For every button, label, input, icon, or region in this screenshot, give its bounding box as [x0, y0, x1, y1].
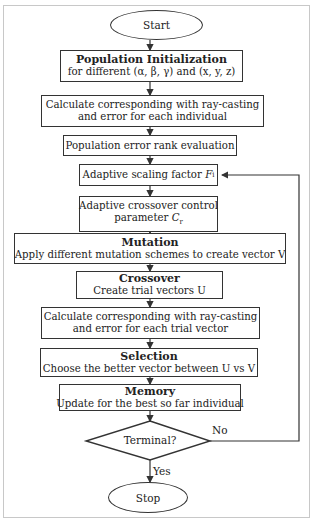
step-selection: Selection Choose the better vector betwe… — [40, 348, 258, 377]
symbol-subscript: r — [179, 218, 182, 226]
step-text: Create trial vectors U — [93, 285, 206, 297]
start-terminal: Start — [110, 10, 203, 40]
step-title: Crossover — [119, 273, 180, 285]
step-text: Population error rank evaluation — [66, 140, 235, 152]
step-calc-individual: Calculate corresponding with ray-casting… — [41, 95, 264, 127]
step-text-line1: Adaptive crossover control — [79, 200, 218, 212]
step-mutation: Mutation Apply different mutation scheme… — [14, 233, 286, 264]
step-text: Adaptive scaling factor — [83, 169, 202, 181]
start-label: Start — [143, 19, 170, 31]
step-text-line2: and error for each individual — [78, 111, 227, 123]
step-text-line1: Calculate corresponding with ray-casting — [44, 311, 258, 323]
step-text-line1: Calculate corresponding with ray-casting — [46, 99, 260, 111]
step-rank-eval: Population error rank evaluation — [63, 135, 237, 156]
symbol-f: F — [205, 169, 212, 181]
decision-label: Terminal? — [100, 434, 200, 446]
no-label: No — [212, 424, 228, 436]
step-crossover-control: Adaptive crossover control parameter Cr — [79, 196, 218, 232]
stop-label: Stop — [136, 492, 160, 504]
step-text-line2: and error for each trial vector — [73, 323, 228, 335]
step-title: Selection — [120, 351, 177, 363]
step-title: Mutation — [122, 237, 179, 249]
step-population-init: Population Initialization for different … — [60, 50, 243, 82]
step-title: Memory — [125, 386, 175, 398]
step-text: Choose the better vector between U vs V — [43, 363, 255, 375]
step-title: Population Initialization — [76, 54, 227, 66]
step-text-line2: parameter — [114, 212, 168, 223]
step-memory: Memory Update for the best so far indivi… — [59, 384, 241, 411]
step-text: Apply different mutation schemes to crea… — [15, 249, 286, 261]
step-scaling-factor: Adaptive scaling factor Fi — [79, 164, 218, 186]
step-crossover: Crossover Create trial vectors U — [76, 271, 223, 299]
step-text: for different (α, β, γ) and (x, y, z) — [68, 66, 236, 78]
stop-terminal: Stop — [108, 482, 188, 513]
step-text: Update for the best so far individual — [56, 398, 244, 410]
yes-label: Yes — [153, 465, 171, 477]
step-calc-trial: Calculate corresponding with ray-casting… — [41, 307, 260, 339]
symbol-subscript: i — [212, 169, 214, 181]
